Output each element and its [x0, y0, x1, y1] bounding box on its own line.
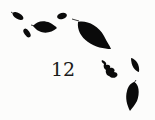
leaf-icon	[126, 80, 138, 111]
leaf-icon	[56, 12, 67, 20]
leaf-icon	[22, 27, 32, 38]
book-page: 12	[0, 0, 155, 120]
falling-leaves-decoration	[0, 0, 155, 120]
page-number: 12	[51, 60, 75, 79]
leaf-icon	[72, 19, 111, 49]
oak-leaf-icon	[102, 60, 118, 78]
leaf-icon	[131, 58, 139, 72]
leaf-icon	[11, 10, 25, 21]
leaf-icon	[31, 21, 57, 32]
